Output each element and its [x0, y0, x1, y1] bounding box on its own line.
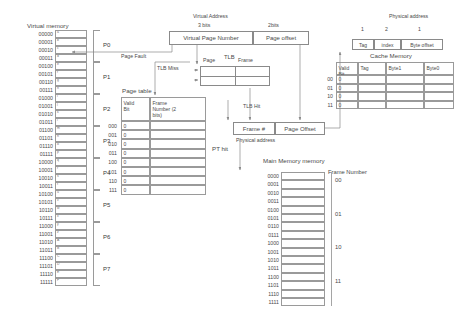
connector-arrows [0, 0, 461, 317]
